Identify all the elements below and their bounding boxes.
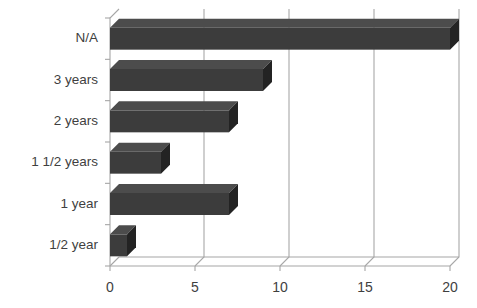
y-axis-label-1: 3 years [54, 72, 99, 87]
bar-front-face [110, 110, 229, 132]
origin-depth-edge [110, 257, 119, 266]
bar-1-year [110, 184, 238, 215]
bar-front-face [110, 28, 450, 50]
bar-3-years [110, 60, 272, 91]
bar-top-face [110, 143, 170, 152]
bar-front-face [110, 234, 127, 256]
bar-top-face [110, 101, 238, 110]
x-axis-label-20: 20 [442, 279, 458, 295]
y-axis-labels-group: N/A3 years2 years1 1/2 years1 year1/2 ye… [31, 30, 98, 252]
bar-2-years [110, 101, 238, 132]
x-axis-label-15: 15 [357, 279, 373, 295]
bar-1-1-2-years [110, 143, 170, 174]
bar-front-face [110, 193, 229, 215]
x-axis-labels-group: 05101520 [106, 279, 458, 295]
bar-top-face [110, 184, 238, 193]
y-axis-label-0: N/A [75, 30, 98, 45]
bars-group [110, 19, 459, 257]
bar-top-face [110, 19, 459, 28]
bar-front-face [110, 152, 161, 174]
bar-n-a [110, 19, 459, 50]
y-axis-label-5: 1/2 year [49, 237, 98, 252]
bar-chart: N/A3 years2 years1 1/2 years1 year1/2 ye… [0, 0, 477, 308]
y-axis-label-3: 1 1/2 years [31, 154, 98, 169]
x-axis-label-5: 5 [191, 279, 199, 295]
bar-top-face [110, 60, 272, 69]
y-axis-label-2: 2 years [54, 113, 99, 128]
x-axis-label-10: 10 [272, 279, 288, 295]
chart-canvas: N/A3 years2 years1 1/2 years1 year1/2 ye… [0, 0, 477, 308]
bar-1-2-year [110, 225, 136, 256]
x-axis-label-0: 0 [106, 279, 114, 295]
y-axis-label-4: 1 year [60, 196, 98, 211]
bar-front-face [110, 69, 263, 91]
